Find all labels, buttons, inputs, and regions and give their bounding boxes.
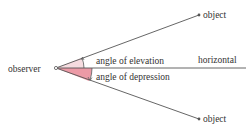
angle-of-depression-label: angle of depression <box>96 72 170 82</box>
observer-label: observer <box>8 64 42 74</box>
object-bottom-point-icon <box>198 118 201 121</box>
observer-point-icon <box>54 66 57 69</box>
object-top-label: object <box>203 10 227 20</box>
object-bottom-label: object <box>203 114 227 124</box>
object-top-point-icon <box>198 14 201 17</box>
angle-of-elevation-label: angle of elevation <box>96 56 164 66</box>
angles-diagram: observer object object horizontal angle … <box>0 0 249 128</box>
horizontal-label: horizontal <box>198 55 237 65</box>
